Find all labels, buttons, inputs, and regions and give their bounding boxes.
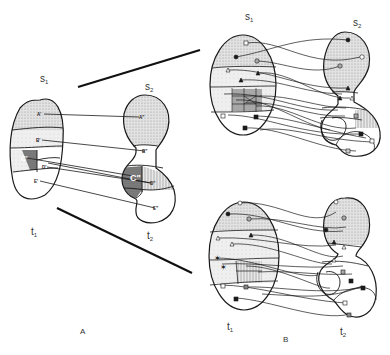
panel-b-top: s1 s2 xyxy=(200,11,390,156)
label-t1-a: t1 xyxy=(31,226,38,238)
region-label-c-prime: C' xyxy=(21,155,28,162)
label-s1-b: s1 xyxy=(245,11,254,23)
retinotopic-mapping-diagram: A' B' C' D' E' A" B" C" D" E" s1 s2 t1 t… xyxy=(0,0,390,355)
region-label-a-dprime: A" xyxy=(139,115,144,120)
region-label-b-prime: B' xyxy=(36,138,40,143)
panel-b-label: B xyxy=(283,335,288,344)
region-label-d-dprime: D" xyxy=(150,181,155,186)
region-label-c-dprime: C" xyxy=(130,173,141,183)
region-label-e-dprime: E" xyxy=(153,206,158,211)
region-label-a-prime: A' xyxy=(37,112,41,117)
panel-a: A' B' C' D' E' A" B" C" D" E" s1 s2 t1 t… xyxy=(0,73,190,336)
region-label-b-dprime: B" xyxy=(142,149,147,154)
label-t2-b: t2 xyxy=(340,326,347,338)
panel-a-label: A xyxy=(80,327,86,336)
label-s2-b: s2 xyxy=(353,17,362,29)
zoom-line-top xyxy=(78,50,200,87)
region-label-d-prime: D' xyxy=(42,165,46,170)
panel-b-bottom: ✶ ✶ t1 t2 B xyxy=(200,190,390,344)
label-t2-a: t2 xyxy=(147,230,154,242)
region-label-e-prime: E' xyxy=(34,179,38,184)
star-marker-icon: ✶ xyxy=(220,263,227,272)
label-s1-a: s1 xyxy=(40,73,49,85)
label-s2-a: s2 xyxy=(145,81,154,93)
star-marker-icon: ✶ xyxy=(214,254,221,263)
label-t1-b: t1 xyxy=(227,321,234,333)
zoom-line-bottom xyxy=(57,208,192,273)
